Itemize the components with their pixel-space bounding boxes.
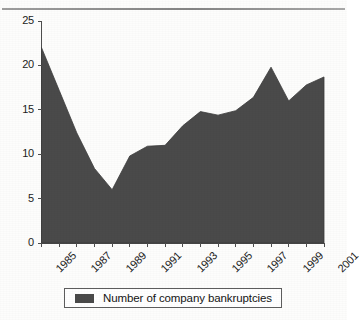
legend-color-swatch bbox=[75, 294, 94, 303]
y-tick-label-20: 20 bbox=[8, 59, 34, 70]
area-chart-svg bbox=[0, 12, 347, 262]
y-tick-label-10: 10 bbox=[8, 148, 34, 159]
y-tick-label-25: 25 bbox=[8, 15, 34, 26]
chart-legend: Number of company bankruptcies bbox=[64, 288, 282, 308]
y-tick-label-0: 0 bbox=[8, 237, 34, 248]
y-tick-label-15: 15 bbox=[8, 104, 34, 115]
plot-area: 0510152025 19851987198919911993199519971… bbox=[0, 12, 347, 262]
series-area-number-of-company-bankruptcies bbox=[42, 48, 325, 243]
chart-series-area bbox=[42, 48, 325, 243]
y-tick-label-5: 5 bbox=[8, 193, 34, 204]
page-rule bbox=[2, 8, 345, 10]
legend-label: Number of company bankruptcies bbox=[103, 292, 272, 304]
